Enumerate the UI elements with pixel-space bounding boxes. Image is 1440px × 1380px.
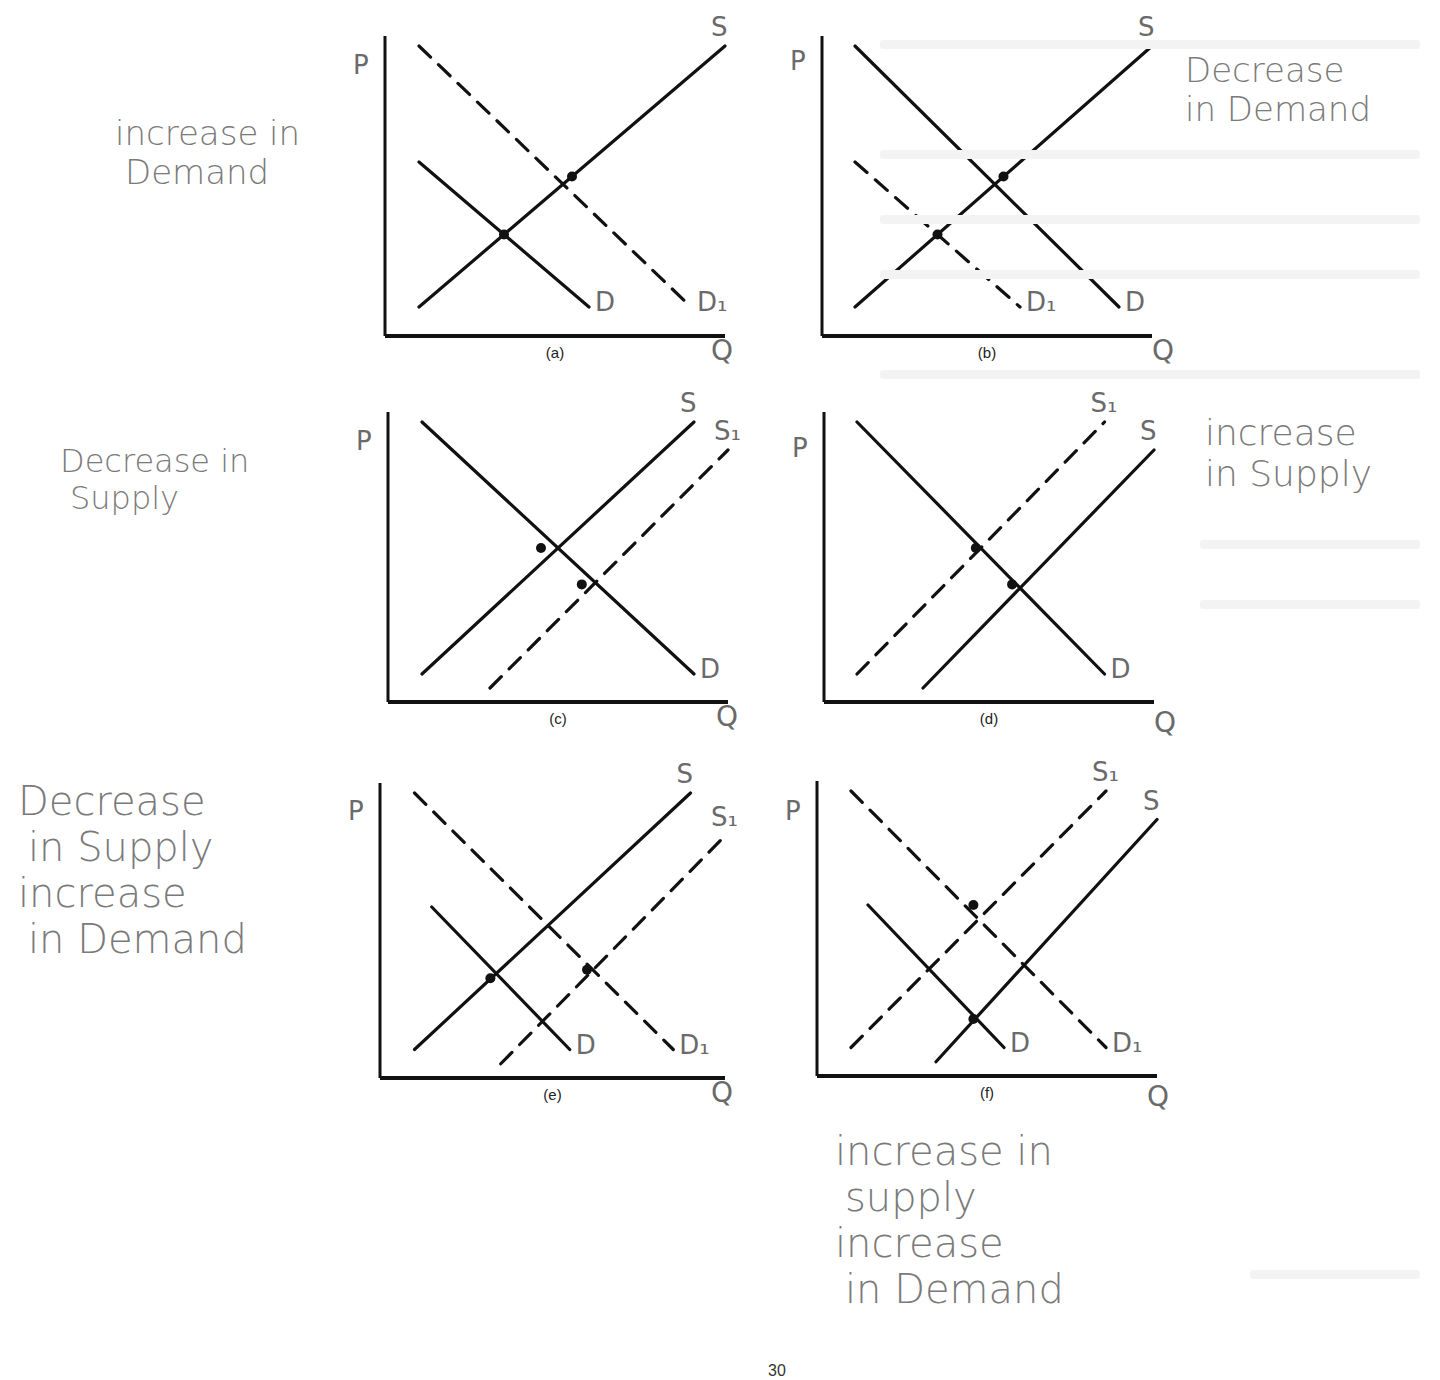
panel-f: PQ(f)SS₁DD₁increase insupplyincreasein D… [785,757,1169,1312]
show-through-line [880,40,1420,49]
panel-a: PQ(a)SDD₁increase inDemand [115,12,733,367]
panel-c: PQ(c)SS₁DDecrease inSupply [60,388,741,733]
handwritten-answer-line: in Supply [28,824,214,870]
equilibrium-point [536,543,546,553]
show-through-line [880,150,1420,159]
curve-label-d1: D₁ [1112,1028,1142,1058]
show-through-line [880,215,1420,224]
panel-e: PQ(e)SS₁DD₁Decreasein Supplyincreasein D… [18,759,738,1109]
curve-label-s1: S₁ [1092,757,1119,787]
show-through-line [1200,540,1420,549]
curve-label-d: D [1111,654,1131,684]
x-axis-label: Q [711,334,733,367]
page-number: 30 [768,1362,786,1380]
handwritten-answer-line: Decrease [1185,50,1344,90]
equilibrium-point [499,230,509,240]
y-axis-label: P [792,433,808,463]
handwritten-answer-line: in Supply [1205,453,1372,494]
handwritten-answer-line: in Demand [28,916,247,962]
handwritten-answer-line: Decrease in [60,442,249,480]
curve-label-d: D [595,287,615,317]
curve-label-d: D [1010,1028,1030,1058]
equilibrium-point [999,172,1009,182]
curve-d1 [415,793,674,1050]
x-axis-label: Q [1147,1080,1169,1113]
curve-s [936,820,1157,1062]
curve-label-s: S [1138,12,1155,42]
equilibrium-point [971,543,981,553]
equilibrium-point [968,1014,978,1024]
curve-label-s1: S₁ [1091,388,1118,418]
x-axis-label: Q [716,700,738,733]
handwritten-answer-line: increase in [115,113,300,153]
handwritten-answer-line: increase [18,870,187,916]
equilibrium-point [567,172,577,182]
panel-caption: (a) [546,344,564,361]
curve-d1 [419,46,691,307]
y-axis-label: P [785,796,801,826]
handwritten-answer-line: Decrease [18,778,206,824]
panel-caption: (b) [978,344,996,361]
curve-s1 [490,450,728,688]
curve-label-s: S [680,388,697,418]
show-through-line [1250,1270,1420,1279]
equilibrium-point [582,965,592,975]
curve-label-s: S [1143,786,1160,816]
curve-label-d: D [1125,287,1145,317]
equilibrium-point [485,973,495,983]
handwritten-answer-line: supply [845,1174,977,1220]
curve-label-s: S [711,12,728,42]
handwritten-answer-line: increase in [835,1128,1053,1174]
y-axis-label: P [348,796,364,826]
x-axis-label: Q [1152,334,1174,367]
curve-label-s: S [1140,416,1157,446]
x-axis-label: Q [711,1076,733,1109]
show-through-line [1200,600,1420,609]
handwritten-answer-line: in Demand [845,1266,1064,1312]
curve-label-s: S [677,759,694,789]
curve-d [855,46,1119,307]
panel-caption: (c) [549,710,567,727]
panel-d: PQ(d)SS₁Dincreasein Supply [792,388,1372,739]
equilibrium-point [968,900,978,910]
panel-caption: (d) [980,710,998,727]
y-axis-label: P [790,46,806,76]
equilibrium-point [933,230,943,240]
curve-s [923,450,1154,688]
curve-label-d: D [576,1030,596,1060]
curve-label-d: D [700,654,720,684]
panel-b: PQ(b)SDD₁Decreasein Demand [790,12,1371,367]
x-axis-label: Q [1154,706,1176,739]
curve-label-s1: S₁ [714,416,741,446]
equilibrium-point [577,579,587,589]
panel-caption: (e) [543,1086,561,1103]
curve-label-d1: D₁ [697,287,727,317]
show-through-line [880,270,1420,279]
curve-label-d1: D₁ [1026,287,1056,317]
handwritten-answer-line: in Demand [1185,89,1371,129]
y-axis-label: P [356,426,372,456]
handwritten-answer-line: increase [835,1220,1004,1266]
y-axis-label: P [353,50,369,80]
handwritten-answer-line: increase [1205,412,1357,453]
equilibrium-point [1007,579,1017,589]
show-through-line [880,370,1420,379]
panel-caption: (f) [980,1084,994,1101]
curve-label-s1: S₁ [711,802,738,832]
handwritten-answer-line: Supply [70,479,179,517]
curve-s [415,793,691,1050]
handwritten-answer-line: Demand [125,152,269,192]
curve-label-d1: D₁ [679,1030,709,1060]
